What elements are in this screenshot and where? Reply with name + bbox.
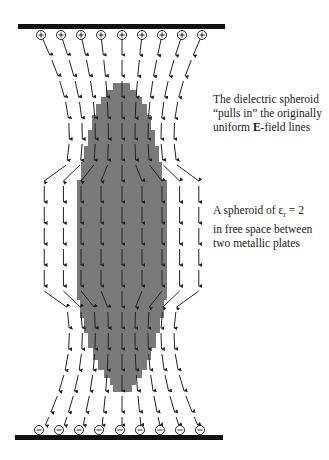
field-line-segment: [140, 39, 142, 55]
field-line-segment: [64, 417, 67, 425]
field-line-segment: [135, 102, 136, 118]
negative-charge-icon: [136, 426, 145, 435]
field-line-segment: [175, 102, 178, 118]
field-line-segment: [165, 375, 169, 391]
field-line-segment: [138, 396, 140, 412]
field-line-segment: [162, 354, 164, 370]
field-line-segment: [90, 375, 92, 391]
field-line-segment: [179, 375, 184, 391]
field-line-segment: [102, 417, 103, 425]
positive-charge-icon: [118, 31, 127, 40]
negative-charge-icon: [176, 426, 185, 435]
field-line-segment: [176, 39, 181, 55]
positive-charge-icon: [138, 31, 147, 40]
caption1-e-bold: E: [253, 121, 261, 133]
field-line-segment: [75, 81, 79, 97]
field-line-segment: [107, 102, 108, 118]
field-line-segment: [158, 417, 160, 425]
field-line-segment: [62, 39, 67, 55]
caption1-line3-suffix: -field lines: [261, 121, 311, 133]
negative-charge-icon: [55, 426, 64, 435]
field-line-segment: [67, 144, 69, 160]
positive-charge-icon: [77, 31, 86, 40]
field-line-segment: [80, 102, 82, 118]
field-line-segment: [69, 333, 70, 349]
field-line-segment: [60, 81, 65, 97]
field-line-segment: [86, 396, 89, 412]
bottom-metal-plate: [15, 435, 223, 440]
field-line-segment: [63, 165, 80, 181]
field-line-segment: [138, 60, 140, 76]
negative-charge-icon: [156, 426, 165, 435]
field-line-segment: [162, 102, 164, 118]
field-line-segment: [165, 81, 168, 97]
caption1-line3: uniform E-field lines: [213, 120, 328, 134]
field-line-segment: [79, 354, 81, 370]
field-line-segment: [51, 396, 57, 412]
caption-field-lines: The dielectric spheroid “pulls in” the o…: [213, 92, 328, 134]
field-line-segment: [81, 144, 82, 160]
field-line-segment: [158, 39, 161, 55]
field-line-segment: [177, 165, 199, 181]
field-line-segment: [65, 354, 68, 370]
field-line-segment: [170, 396, 175, 412]
caption2-line1-suffix: = 2: [286, 204, 304, 216]
field-line-segment: [174, 312, 176, 328]
field-line-segment: [174, 333, 175, 349]
field-line-segment: [194, 417, 197, 425]
field-line-segment: [179, 81, 184, 97]
field-line-segment: [185, 60, 191, 76]
field-line-segment: [163, 165, 179, 181]
caption-spheroid: A spheroid of εr = 2 in free space betwe…: [213, 203, 328, 250]
field-line-segment: [90, 81, 92, 97]
field-line-segment: [174, 144, 176, 160]
field-line-segment: [44, 291, 66, 307]
field-line-segment: [82, 333, 83, 349]
top-metal-plate: [18, 24, 225, 29]
caption2-line1: A spheroid of εr = 2: [213, 203, 328, 222]
spheroid-step: [110, 378, 136, 385]
field-line-segment: [177, 291, 199, 307]
positive-charge-icon: [178, 31, 187, 40]
e-field-lines: [43, 39, 200, 425]
positive-charge-icon: [97, 31, 106, 40]
field-line-segment: [66, 102, 69, 118]
field-line-segment: [86, 60, 89, 76]
field-line-segment: [101, 39, 103, 55]
field-line-segment: [140, 417, 141, 425]
field-line-segment: [161, 144, 162, 160]
field-line-segment: [151, 375, 153, 391]
field-line-segment: [83, 417, 85, 425]
caption1-line2: “pulls in” the originally: [213, 106, 328, 120]
field-line-segment: [186, 396, 192, 412]
field-line-segment: [75, 375, 79, 391]
caption1-line1: The dielectric spheroid: [213, 92, 328, 106]
negative-charge-icon: [116, 426, 125, 435]
negative-charge-icon: [35, 426, 44, 435]
caption2-line3: two metallic plates: [213, 236, 328, 250]
caption1-line3-prefix: uniform: [213, 121, 253, 133]
caption2-line2: in free space between: [213, 222, 328, 236]
field-line-segment: [45, 417, 48, 425]
field-line-segment: [59, 375, 64, 391]
field-line-segment: [150, 81, 152, 97]
field-line-segment: [154, 396, 157, 412]
field-line-segment: [82, 39, 86, 55]
field-line-segment: [69, 60, 74, 76]
positive-charge-icon: [198, 31, 207, 40]
field-line-segment: [136, 81, 137, 97]
field-line-segment: [44, 165, 66, 181]
field-line-segment: [104, 60, 106, 76]
field-line-segment: [154, 60, 157, 76]
positive-charge-icon: [57, 31, 66, 40]
positive-charge-icon: [37, 31, 46, 40]
field-line-segment: [52, 60, 58, 76]
field-line-segment: [193, 39, 200, 55]
field-line-segment: [43, 39, 50, 55]
field-line-segment: [175, 354, 178, 370]
negative-charge-icon: [196, 426, 205, 435]
positive-charge-icon: [158, 31, 167, 40]
field-line-segment: [69, 396, 74, 412]
field-line-segment: [176, 417, 179, 425]
caption2-line1-prefix: A spheroid of ε: [213, 204, 283, 216]
